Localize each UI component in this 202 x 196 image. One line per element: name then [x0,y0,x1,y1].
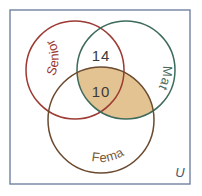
region-count-senior-math: 14 [92,47,111,64]
universe-label: U [175,165,185,180]
venn-diagram-figure: Senior Math Female 14 10 U [0,0,202,196]
venn-diagram-canvas: Senior Math Female 14 10 U [0,0,202,196]
region-count-all-three: 10 [92,83,111,100]
